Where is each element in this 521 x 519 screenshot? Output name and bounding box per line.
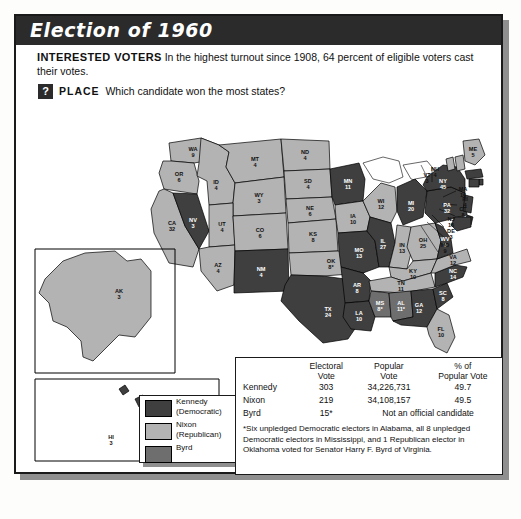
place-question-row: PLACE Which candidate won the most state… <box>59 85 285 97</box>
legend-swatch-byrd <box>145 446 172 463</box>
state-VT <box>446 157 455 171</box>
election-map-figure: Election of 1960 INTERESTED VOTERS In th… <box>0 0 521 519</box>
state-votes-FL: 10 <box>438 332 444 338</box>
cell-candidate: Nixon <box>236 394 298 407</box>
intro-text-block: INTERESTED VOTERS In the highest turnout… <box>37 50 487 78</box>
th-pct: % of Popular Vote <box>424 362 502 381</box>
cell-pct: 49.7 <box>424 381 502 394</box>
state-votes-NC: 14 <box>450 274 457 280</box>
state-votes-WA: 9 <box>191 152 194 158</box>
state-votes-CA: 32 <box>169 226 175 232</box>
place-question: Which candidate won the most states? <box>105 85 285 97</box>
state-votes-NE: 6 <box>308 211 311 217</box>
state-votes-WY: 3 <box>257 198 260 204</box>
state-votes-OH: 25 <box>420 243 426 249</box>
state-votes-WI: 12 <box>378 204 384 210</box>
state-votes-PA: 32 <box>444 208 450 214</box>
state-votes-VA: 12 <box>450 260 456 266</box>
cell-popular: 34,108,157 <box>354 394 423 407</box>
legend-swatch-kennedy <box>145 400 172 417</box>
th-candidate <box>236 362 298 381</box>
legend-label-nixon: Nixon(Republican) <box>176 420 221 440</box>
state-CT <box>469 179 479 187</box>
legend-label-byrd: Byrd <box>176 443 192 453</box>
table-row: Nixon21934,108,15749.5 <box>236 394 502 407</box>
state-votes-HI: 3 <box>109 440 112 446</box>
state-votes-KY: 10 <box>410 274 416 280</box>
table-row: Kennedy30334,226,73149.7 <box>236 381 502 394</box>
cell-electoral: 303 <box>298 381 354 394</box>
cell-popular: Not an official candidate <box>354 407 502 420</box>
th-popular: Popular Vote <box>354 362 423 381</box>
state-votes-NV: 3 <box>191 223 194 229</box>
results-table-body: Kennedy30334,226,73149.7Nixon21934,108,1… <box>236 381 502 420</box>
state-MA <box>465 169 483 179</box>
table-header-row: Electoral Vote Popular Vote % of Popular… <box>236 362 502 381</box>
state-votes-AR: 8 <box>355 288 358 294</box>
legend-label-kennedy: Kennedy(Democratic) <box>176 397 222 417</box>
state-RI <box>479 179 483 185</box>
state-votes-DE: 3 <box>449 234 452 240</box>
state-votes-AK: 3 <box>117 294 120 300</box>
state-votes-TN: 11 <box>398 286 404 292</box>
state-votes-MN: 11 <box>345 184 351 190</box>
cell-popular: 34,226,731 <box>354 381 423 394</box>
state-votes-KS: 8 <box>311 237 314 243</box>
state-votes-ME: 5 <box>471 152 474 158</box>
state-votes-AL: 11* <box>397 306 406 312</box>
state-votes-IA: 10 <box>350 219 356 225</box>
cell-pct: 49.5 <box>424 394 502 407</box>
question-mark-icon: ? <box>38 84 53 99</box>
state-HI <box>119 385 129 395</box>
state-votes-IL: 27 <box>380 244 386 250</box>
cell-electoral: 15* <box>298 407 354 420</box>
cell-candidate: Byrd <box>236 407 298 420</box>
state-votes-LA: 10 <box>356 316 362 322</box>
state-AK <box>39 251 151 361</box>
state-NH <box>455 155 465 171</box>
state-votes-NY: 45 <box>440 184 446 190</box>
state-votes-MI: 20 <box>408 206 414 212</box>
state-votes-MS: 8* <box>377 306 383 312</box>
table-row: Byrd15*Not an official candidate <box>236 407 502 420</box>
results-table-box: Electoral Vote Popular Vote % of Popular… <box>235 357 503 475</box>
intro-lead: INTERESTED VOTERS <box>37 51 162 63</box>
cell-candidate: Kennedy <box>236 381 298 394</box>
intro-panel: INTERESTED VOTERS In the highest turnout… <box>23 45 494 118</box>
results-table: Electoral Vote Popular Vote % of Popular… <box>236 362 502 420</box>
state-votes-IN: 13 <box>399 248 405 254</box>
state-votes-OK: 8* <box>328 264 334 270</box>
state-votes-MD: 9 <box>443 248 446 254</box>
page-title: Election of 1960 <box>30 19 213 41</box>
cell-electoral: 219 <box>298 394 354 407</box>
state-votes-MO: 13 <box>356 253 362 259</box>
state-votes-SC: 8 <box>441 296 444 302</box>
place-label: PLACE <box>59 85 100 97</box>
results-table-head: Electoral Vote Popular Vote % of Popular… <box>236 362 502 381</box>
state-votes-VT: 3 <box>425 178 428 184</box>
title-bar: Election of 1960 <box>16 16 501 45</box>
legend-swatch-nixon <box>145 423 172 440</box>
state-votes-CO: 6 <box>258 233 261 239</box>
state-votes-TX: 24 <box>325 312 332 318</box>
state-votes-OR: 6 <box>177 177 180 183</box>
th-electoral: Electoral Vote <box>298 362 354 381</box>
table-footnote: *Six unpledged Democratic electors in Al… <box>243 424 497 456</box>
state-votes-GA: 12 <box>416 308 422 314</box>
state-votes-CT: 8 <box>461 212 464 218</box>
great-lake-1 <box>363 157 403 183</box>
